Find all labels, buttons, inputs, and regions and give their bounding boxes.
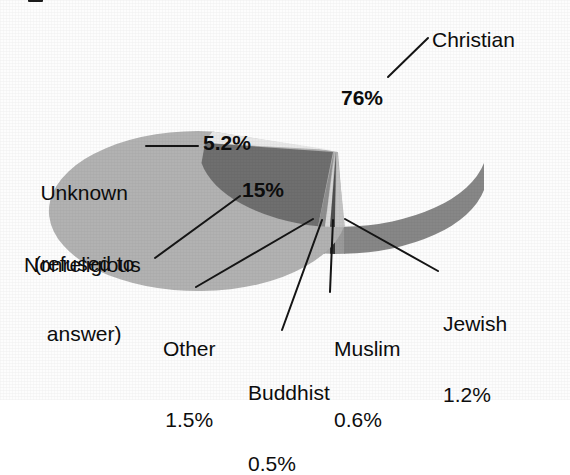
- slice-label-muslim: Muslim 0.6%: [334, 290, 401, 475]
- slice-label-jewish-name: Jewish: [443, 312, 507, 336]
- slice-label-other: Other 1.5%: [163, 290, 216, 475]
- slice-label-jewish: Jewish 1.2%: [443, 265, 507, 453]
- slice-value-muslim: 0.6%: [334, 408, 401, 432]
- slice-label-nonreligious: Nonreligious: [24, 253, 141, 277]
- slice-label-christian: Christian: [432, 28, 515, 52]
- slice-value-unknown: 5.2%: [203, 131, 251, 155]
- christian-side-wall: [344, 163, 484, 254]
- slice-value-nonreligious: 15%: [242, 178, 284, 202]
- slice-label-unknown-line1: Unknown: [34, 181, 134, 205]
- slice-label-muslim-name: Muslim: [334, 337, 401, 361]
- slice-label-buddhist-name: Buddhist: [248, 381, 330, 405]
- slice-value-buddhist: 0.5%: [248, 452, 330, 475]
- slice-value-jewish: 1.2%: [443, 383, 507, 407]
- slice-label-buddhist: Buddhist 0.5%: [248, 334, 330, 475]
- slice-value-christian: 76%: [341, 86, 383, 110]
- slice-label-other-name: Other: [163, 337, 216, 361]
- leader-line-christian: [388, 38, 428, 77]
- slice-label-unknown-line3: answer): [34, 322, 134, 346]
- slice-value-other: 1.5%: [163, 408, 216, 432]
